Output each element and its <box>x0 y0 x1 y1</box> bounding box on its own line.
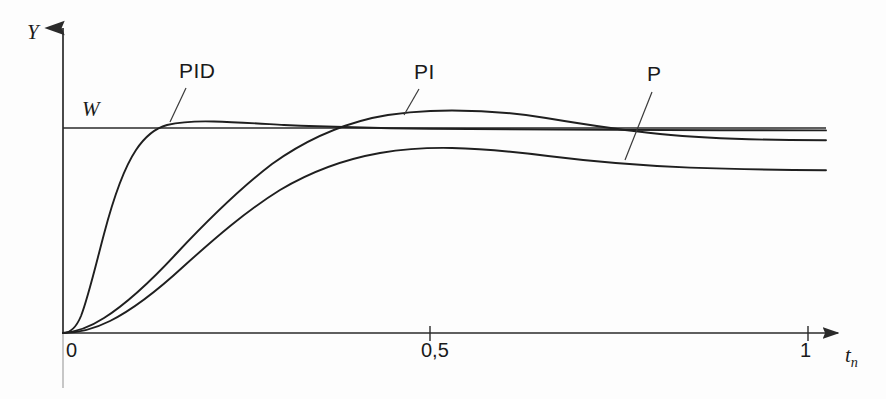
x-axis-label-subscript: n <box>851 354 858 370</box>
leader-line-pid <box>170 88 186 122</box>
curve-label-pid: PID <box>179 60 215 81</box>
setpoint-label: W <box>82 99 100 120</box>
curve-label-pi: PI <box>414 61 435 82</box>
step-response-chart: Y W tn PID PI P 0 0,5 1 <box>0 0 886 399</box>
x-axis-label: tn <box>845 345 858 369</box>
x-tick-label-0: 0 <box>66 340 77 360</box>
curve-pi <box>63 111 826 334</box>
y-axis-label: Y <box>27 22 39 43</box>
x-tick-label-half: 0,5 <box>421 340 449 360</box>
leader-line-p <box>625 92 652 160</box>
curve-p <box>63 148 826 333</box>
curve-pid <box>63 121 826 333</box>
curve-label-p: P <box>647 63 661 84</box>
x-tick-label-one: 1 <box>800 340 811 360</box>
